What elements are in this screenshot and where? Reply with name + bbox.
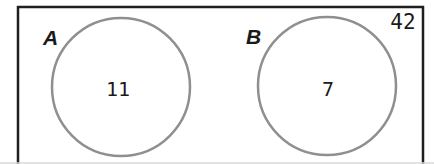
venn-diagram: A B 11 7 42 bbox=[0, 0, 434, 164]
outside-sets-value: 42 bbox=[390, 10, 415, 34]
set-b-label: B bbox=[246, 25, 261, 48]
venn-diagram-canvas: A B 11 7 42 bbox=[0, 0, 434, 164]
set-a-value: 11 bbox=[106, 77, 130, 101]
set-b-value: 7 bbox=[322, 77, 334, 101]
set-a-label: A bbox=[42, 26, 58, 49]
